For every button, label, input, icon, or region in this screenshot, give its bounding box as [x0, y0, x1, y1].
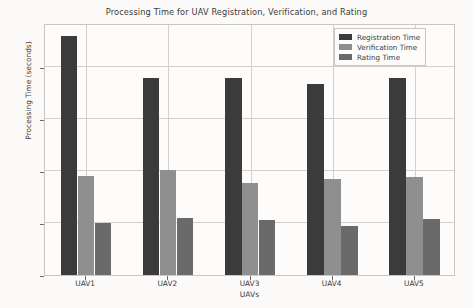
y-tick-mark — [40, 68, 44, 69]
bar — [406, 177, 422, 275]
bar — [341, 226, 357, 275]
y-tick-mark — [40, 276, 44, 277]
x-tick-label: UAV5 — [384, 279, 444, 288]
legend-item: Verification Time — [339, 42, 420, 52]
legend-swatch-icon — [339, 34, 352, 40]
bar — [389, 78, 405, 275]
legend-label: Verification Time — [357, 43, 417, 52]
x-tick-label: UAV3 — [220, 279, 280, 288]
legend-item: Registration Time — [339, 32, 420, 42]
y-tick-mark — [40, 120, 44, 121]
bar-chart-figure: Processing Time for UAV Registration, Ve… — [0, 0, 473, 308]
bar — [423, 219, 439, 275]
x-tick-label: UAV2 — [137, 279, 197, 288]
x-tick-mark — [414, 276, 415, 280]
chart-legend: Registration TimeVerification TimeRating… — [334, 28, 426, 66]
legend-swatch-icon — [339, 44, 352, 50]
x-tick-mark — [85, 276, 86, 280]
bar — [160, 170, 176, 275]
bar — [78, 176, 94, 275]
legend-label: Rating Time — [357, 53, 400, 62]
legend-label: Registration Time — [357, 33, 420, 42]
chart-title: Processing Time for UAV Registration, Ve… — [0, 7, 473, 17]
y-tick-mark — [40, 172, 44, 173]
y-axis-label: Processing Time (seconds) — [24, 11, 33, 171]
bar — [259, 220, 275, 275]
x-tick-label: UAV4 — [302, 279, 362, 288]
bar — [307, 84, 323, 275]
gridline-horizontal — [45, 66, 454, 67]
x-tick-mark — [250, 276, 251, 280]
bar — [95, 223, 111, 275]
bar — [61, 36, 77, 275]
bar — [324, 179, 340, 275]
x-tick-mark — [167, 276, 168, 280]
y-tick-mark — [40, 224, 44, 225]
bar — [143, 78, 159, 275]
x-tick-mark — [332, 276, 333, 280]
x-tick-label: UAV1 — [55, 279, 115, 288]
legend-swatch-icon — [339, 54, 352, 60]
bar — [242, 183, 258, 275]
bar — [177, 218, 193, 275]
bar — [225, 78, 241, 275]
x-axis-label: UAVs — [44, 290, 455, 299]
legend-item: Rating Time — [339, 52, 420, 62]
